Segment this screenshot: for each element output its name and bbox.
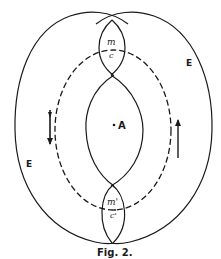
top-lens-right bbox=[111, 20, 125, 75]
label-c-prime: c' bbox=[110, 211, 117, 220]
label-E-right: E bbox=[186, 58, 192, 68]
inner-vesica-right bbox=[111, 75, 143, 186]
label-c: c bbox=[109, 51, 114, 60]
label-m: m bbox=[107, 37, 116, 47]
center-point bbox=[113, 124, 116, 127]
arrow-up-icon bbox=[175, 119, 181, 158]
inner-vesica-left bbox=[86, 75, 114, 186]
figure-diagram: A m c m' c' E E Fig. 2. bbox=[0, 0, 221, 259]
label-E-left: E bbox=[26, 159, 32, 169]
label-m-prime: m' bbox=[107, 197, 118, 207]
top-lens-left bbox=[99, 20, 113, 75]
arrow-down-icon bbox=[47, 110, 53, 145]
label-A: A bbox=[118, 120, 126, 131]
figure-caption: Fig. 2. bbox=[97, 247, 132, 258]
